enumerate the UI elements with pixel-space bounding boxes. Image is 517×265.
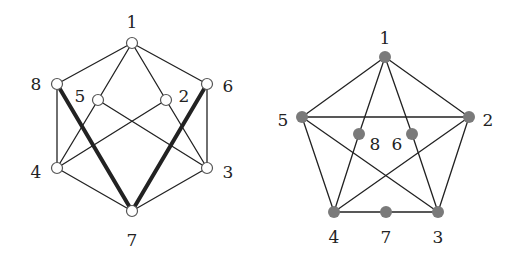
node-6 [202,79,213,90]
right-graph: 15286473 [278,28,494,247]
node-label-8: 8 [370,134,381,154]
edge-8-4 [334,134,359,212]
edge-5-4 [57,100,98,168]
edge-1-5 [302,57,385,117]
node-7 [127,206,138,217]
edge-1-6 [132,43,207,84]
node-1 [379,51,391,63]
right-graph-nodes [296,51,475,218]
left-graph-edges [57,43,207,211]
node-label-4: 4 [31,162,42,182]
graph-diagram-canvas: 18526437 15286473 [0,0,517,265]
edge-5-4 [302,117,334,212]
node-label-1: 1 [127,12,138,32]
node-label-3: 3 [223,162,234,182]
left-graph: 18526437 [31,12,234,250]
node-4 [52,163,63,174]
node-4 [328,206,340,218]
node-7 [380,206,392,218]
node-6 [406,128,418,140]
edge-1-2 [385,57,469,117]
node-label-3: 3 [433,227,444,247]
left-graph-nodes [52,38,213,217]
node-3 [432,206,444,218]
edge-6-3 [412,134,438,212]
node-label-1: 1 [380,28,391,48]
node-label-5: 5 [75,86,86,106]
node-label-2: 2 [483,110,494,130]
node-label-8: 8 [31,74,42,94]
node-8 [52,79,63,90]
edge-2-3 [166,100,207,168]
node-1 [127,38,138,49]
node-label-6: 6 [392,134,403,154]
node-8 [353,128,365,140]
edge-1-5 [98,43,132,100]
node-3 [202,163,213,174]
node-label-7: 7 [381,227,392,247]
node-label-6: 6 [223,76,234,96]
edge-1-8 [359,57,385,134]
edge-1-6 [385,57,412,134]
node-2 [161,95,172,106]
edge-2-3 [438,117,469,212]
node-5 [93,95,104,106]
edge-5-3 [302,117,438,212]
node-label-4: 4 [329,227,340,247]
node-label-2: 2 [179,86,190,106]
node-label-5: 5 [278,110,289,130]
node-2 [463,111,475,123]
edge-1-8 [57,43,132,84]
node-5 [296,111,308,123]
edge-1-2 [132,43,166,100]
node-label-7: 7 [127,230,138,250]
right-graph-edges [302,57,469,212]
